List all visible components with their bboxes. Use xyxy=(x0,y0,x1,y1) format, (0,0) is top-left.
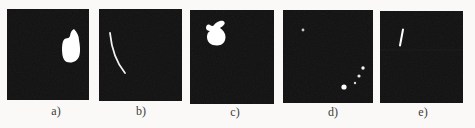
panel-d-mask-image xyxy=(283,10,373,103)
panel-d-dot-0 xyxy=(302,29,305,32)
panel-e-label: e) xyxy=(408,106,438,119)
panel-e-mask-image xyxy=(380,11,463,103)
panel-d-noise-texture xyxy=(283,10,373,103)
figure-root: a)b)c)d)e) xyxy=(0,0,475,128)
panel-a-mask-image xyxy=(7,9,89,100)
panel-a-label: a) xyxy=(41,105,71,118)
panel-b xyxy=(99,9,182,101)
panel-d-dot-4 xyxy=(341,84,346,89)
panel-e xyxy=(380,11,463,103)
panel-d xyxy=(283,10,373,103)
panel-b-mask-image xyxy=(99,9,182,101)
panel-b-label: b) xyxy=(126,105,156,118)
panel-c xyxy=(190,10,274,104)
panel-b-noise-texture xyxy=(99,9,182,101)
panel-c-noise-texture xyxy=(190,10,274,104)
panel-d-dot-2 xyxy=(357,74,360,77)
panel-d-dot-3 xyxy=(354,82,356,84)
panel-e-noise-texture xyxy=(380,11,463,103)
panel-d-label: d) xyxy=(318,106,348,119)
panel-d-dot-1 xyxy=(361,66,364,69)
panel-a xyxy=(7,9,89,100)
panel-c-label: c) xyxy=(220,106,250,119)
panel-c-mask-image xyxy=(190,10,274,104)
